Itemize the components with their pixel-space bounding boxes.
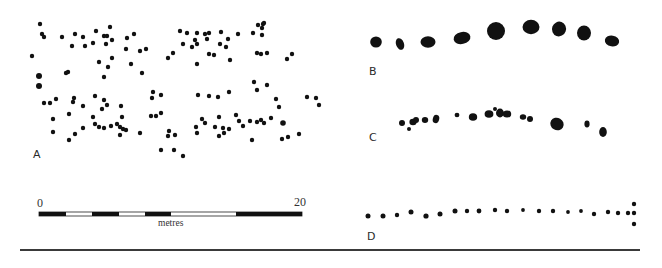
dot-marker: [207, 31, 211, 35]
dot-marker: [67, 138, 71, 142]
blob-marker: [452, 30, 471, 45]
dot-marker: [178, 29, 182, 33]
dot-marker: [159, 148, 163, 152]
blob-marker: [421, 36, 436, 48]
dot-marker: [265, 51, 269, 55]
dot-marker: [234, 113, 238, 117]
dot-marker: [38, 22, 42, 26]
dot-marker: [200, 117, 204, 121]
dot-marker: [166, 134, 170, 138]
dot-marker: [286, 135, 290, 139]
dot-marker: [285, 57, 289, 61]
dot-marker: [149, 114, 153, 118]
dot-marker: [195, 131, 199, 135]
panel-c-blobs: [399, 107, 607, 137]
dot-marker: [93, 94, 97, 98]
dot-marker: [280, 137, 284, 141]
dot-marker: [100, 107, 104, 111]
dot-marker: [172, 148, 176, 152]
blob-marker: [493, 107, 497, 111]
blob-marker: [487, 22, 505, 40]
blob-marker: [455, 113, 460, 117]
dot-marker: [70, 44, 74, 48]
dot-marker: [166, 56, 170, 60]
dot-marker: [226, 37, 230, 41]
blob-marker: [550, 20, 568, 39]
blob-marker: [432, 114, 440, 124]
dot-marker: [67, 112, 71, 116]
blob-marker: [413, 117, 419, 123]
dot-marker: [54, 97, 58, 101]
dot-marker: [81, 35, 85, 39]
dot-marker: [207, 52, 211, 56]
dot-marker: [30, 54, 34, 58]
dot-marker: [181, 154, 185, 158]
dot-marker: [290, 52, 294, 56]
dot-marker: [185, 31, 189, 35]
dot-marker: [566, 210, 570, 214]
dot-marker: [277, 105, 281, 109]
dot-marker: [252, 80, 256, 84]
scale-segment: [145, 212, 171, 216]
dot-marker: [551, 209, 555, 213]
blob-marker: [394, 37, 406, 51]
panel-d-row: [366, 202, 637, 226]
dot-marker: [190, 45, 194, 49]
scale-start-label: 0: [37, 197, 43, 209]
dot-marker: [224, 45, 228, 49]
dot-marker: [592, 212, 596, 216]
dot-marker: [465, 209, 469, 213]
dot-marker: [256, 23, 260, 27]
dot-distribution-figure: A B C D 0 20 metres: [0, 0, 662, 268]
dot-marker: [154, 114, 158, 118]
dot-marker: [81, 126, 85, 130]
dot-marker: [48, 101, 52, 105]
dot-marker: [66, 70, 70, 74]
dot-marker: [109, 124, 113, 128]
dot-marker: [138, 49, 142, 53]
dot-marker: [108, 25, 112, 29]
blob-marker: [527, 116, 533, 122]
blob-marker: [599, 127, 607, 137]
dot-marker: [221, 126, 225, 130]
dot-marker: [144, 47, 148, 51]
panel-label-b: B: [369, 66, 377, 77]
dot-marker: [159, 93, 163, 97]
dot-marker: [228, 58, 232, 62]
dot-marker: [248, 119, 252, 123]
dot-marker: [94, 29, 98, 33]
blob-marker: [407, 127, 411, 131]
dot-marker: [207, 94, 211, 98]
dot-marker: [222, 131, 226, 135]
dot-marker: [453, 209, 458, 214]
blob-marker: [469, 113, 477, 121]
dot-marker: [317, 103, 321, 107]
dot-marker: [125, 36, 129, 40]
dot-marker: [102, 75, 106, 79]
panel-label-c: C: [369, 132, 377, 143]
dot-marker: [36, 83, 42, 89]
dot-marker: [632, 202, 636, 206]
dot-marker: [213, 125, 217, 129]
dot-marker: [216, 95, 220, 99]
blob-marker: [604, 34, 620, 47]
dot-marker: [537, 209, 541, 213]
dot-marker: [106, 65, 110, 69]
dot-marker: [60, 35, 64, 39]
dot-marker: [110, 38, 114, 42]
dot-marker: [314, 96, 318, 100]
dot-marker: [250, 138, 254, 142]
dot-marker: [395, 213, 399, 217]
dot-marker: [138, 131, 142, 135]
dot-marker: [493, 208, 497, 212]
dot-marker: [102, 126, 106, 130]
dot-marker: [118, 133, 122, 137]
dot-marker: [193, 38, 197, 42]
dot-marker: [151, 90, 155, 94]
dot-marker: [124, 47, 128, 51]
dot-marker: [274, 97, 278, 101]
bottom-rule: [20, 249, 640, 251]
dot-marker: [305, 95, 309, 99]
dot-marker: [227, 90, 231, 94]
dot-marker: [241, 124, 245, 128]
